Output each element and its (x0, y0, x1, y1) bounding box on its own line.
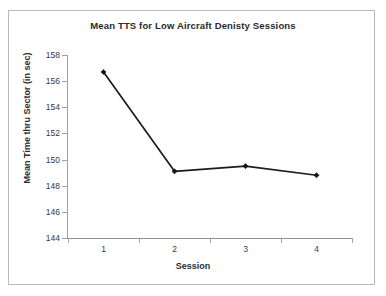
chart-figure: Mean TTS for Low Aircraft Denisty Sessio… (0, 0, 386, 296)
x-tick-label: 4 (302, 244, 332, 254)
y-tick-mark (62, 133, 67, 134)
x-tick-mark (139, 239, 140, 243)
y-tick-mark (62, 212, 67, 213)
y-tick-mark (62, 107, 67, 108)
y-tick-mark (62, 55, 67, 56)
x-axis-title: Session (0, 261, 386, 271)
x-tick-label: 2 (160, 244, 190, 254)
y-tick-mark (62, 186, 67, 187)
x-tick-mark (352, 239, 353, 243)
x-tick-mark (210, 239, 211, 243)
chart-title: Mean TTS for Low Aircraft Denisty Sessio… (0, 20, 386, 31)
x-tick-label: 3 (231, 244, 261, 254)
y-axis-title: Mean Time thru Sector (in sec) (22, 28, 32, 208)
y-tick-label: 146 (20, 207, 60, 217)
y-tick-label: 144 (20, 233, 60, 243)
x-tick-mark (68, 239, 69, 243)
y-tick-mark (62, 238, 67, 239)
y-tick-mark (62, 81, 67, 82)
x-tick-mark (281, 239, 282, 243)
y-axis-line (67, 55, 68, 239)
x-tick-label: 1 (89, 244, 119, 254)
y-tick-mark (62, 160, 67, 161)
